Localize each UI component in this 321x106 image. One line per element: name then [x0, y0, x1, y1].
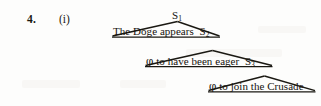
phi-symbol-3: φ	[209, 80, 216, 92]
node-label-s3: S3	[242, 55, 255, 67]
node-subscript-1: 1	[178, 14, 182, 23]
screenshot-root: 4. (i) S1 The Doge appears S2 φ to have …	[0, 0, 321, 106]
terminal-words-1: The Doge appears	[113, 25, 194, 37]
node-subscript-2: 2	[206, 30, 210, 39]
phi-symbol-2: φ	[146, 55, 153, 67]
terminal-row-2: φ to have been eager S3	[146, 55, 255, 69]
terminal-words-3: to join the Crusade	[219, 80, 303, 92]
terminal-row-1: The Doge appears S2	[113, 25, 209, 39]
node-subscript-3: 3	[251, 60, 255, 69]
terminal-row-3: φ to join the Crusade	[209, 80, 304, 92]
node-label-s1: S1	[172, 9, 182, 23]
terminal-words-2: to have been eager	[156, 55, 239, 67]
node-label-s2: S2	[197, 25, 210, 37]
